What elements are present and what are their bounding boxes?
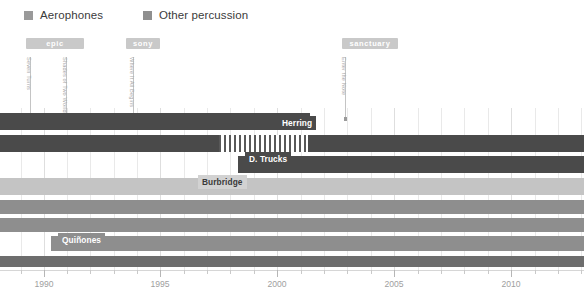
axis-major-tick [394,270,395,277]
axis-minor-tick [21,270,22,274]
axis-minor-tick [254,270,255,274]
bar-segment[interactable] [0,113,310,130]
axis-minor-tick [488,270,489,274]
axis-line [0,270,584,271]
axis-major-tick [511,270,512,277]
x-axis: 19901995200020052010 [0,270,584,302]
axis-minor-tick [371,270,372,274]
axis-minor-tick [535,270,536,274]
axis-minor-tick [464,270,465,274]
axis-minor-tick [114,270,115,274]
axis-major-tick [277,270,278,277]
axis-tick-label: 1995 [150,279,169,289]
bar-row[interactable] [0,256,584,267]
axis-major-tick [44,270,45,277]
bar-segment[interactable] [0,256,584,267]
axis-minor-tick [230,270,231,274]
bar-segment[interactable] [0,135,219,152]
legend-item-label: Other percussion [159,9,248,21]
bar-segment[interactable] [219,135,308,152]
publisher-pill[interactable]: sony [126,38,160,49]
square-swatch-icon [24,11,33,20]
publisher-pill[interactable]: sanctuary [342,38,398,49]
axis-minor-tick [324,270,325,274]
publisher-pill[interactable]: epic [26,38,84,49]
bar-row[interactable] [0,135,584,152]
axis-major-tick [160,270,161,277]
bar-segment[interactable] [51,236,584,251]
timeline-chart-root: AerophonesOther percussion epicsonysanct… [0,0,584,302]
release-annotation-label: Shades of Two Worlds [62,57,68,116]
axis-tick-label: 2000 [267,279,286,289]
axis-tick-label: 2010 [501,279,520,289]
axis-tick-label: 1990 [34,279,53,289]
bar-row[interactable] [0,200,584,214]
axis-minor-tick [137,270,138,274]
bar-name-label[interactable]: Quiñones [58,233,105,247]
axis-minor-tick [184,270,185,274]
bar-name-label[interactable]: Burbridge [198,175,247,189]
bar-row[interactable] [0,178,584,195]
release-annotation-label: Seven Turns [26,57,32,90]
axis-minor-tick [90,270,91,274]
axis-minor-tick [558,270,559,274]
axis-minor-tick [67,270,68,274]
axis-minor-tick [347,270,348,274]
bar-row[interactable] [0,218,584,232]
square-swatch-icon [143,11,152,20]
bar-segment[interactable] [0,200,584,214]
legend-item[interactable]: Aerophones [24,9,103,21]
axis-minor-tick [418,270,419,274]
axis-minor-tick [301,270,302,274]
bar-segment[interactable] [0,218,584,232]
axis-minor-tick [207,270,208,274]
axis-tick-label: 2005 [384,279,403,289]
axis-minor-tick [581,270,582,274]
bar-name-label[interactable]: Herring [278,116,316,130]
bar-segment[interactable] [308,135,584,152]
bar-row[interactable] [0,156,584,173]
release-annotation-label: Where It All Begins [129,57,135,107]
legend-item-label: Aerophones [40,9,103,21]
legend-item[interactable]: Other percussion [143,9,248,21]
release-annotation-label: Enter the Note [341,57,347,95]
axis-minor-tick [441,270,442,274]
bar-name-label[interactable]: D. Trucks [245,152,291,166]
bar-segment[interactable] [0,178,584,195]
chart-legend: AerophonesOther percussion [24,9,248,21]
